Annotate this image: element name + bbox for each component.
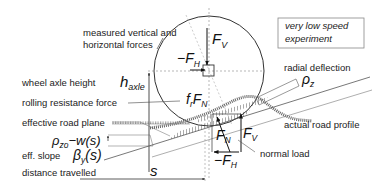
label-measured-forces-2: horizontal forces <box>83 39 153 50</box>
label-normal-load: normal load <box>260 148 310 159</box>
rho-zo-guides <box>108 135 153 146</box>
symbol-rho-z: ρz <box>301 71 315 89</box>
label-rolling-resistance: rolling resistance force <box>22 97 117 108</box>
symbol-fh-low: −FH <box>214 152 238 170</box>
label-eff-slope: eff. slope <box>22 150 60 161</box>
symbol-beta: βy(s) <box>72 147 102 165</box>
symbol-s: s <box>150 162 158 179</box>
label-distance-travelled: distance travelled <box>22 167 96 178</box>
label-wheel-axle-height: wheel axle height <box>21 77 96 88</box>
label-effective-road-plane: effective road plane <box>22 117 105 128</box>
rolling-resistance-leader <box>128 101 180 103</box>
symbol-fv-low: FV <box>243 125 259 143</box>
symbol-fh-top: −FH <box>177 50 201 69</box>
label-radial-deflection: radial deflection <box>284 62 351 73</box>
symbol-fn: FN <box>216 127 232 145</box>
label-measured-forces-1: measured vertical and <box>83 27 176 38</box>
symbol-h-axle: haxle <box>120 73 145 92</box>
symbol-fr-fn: frFN <box>186 91 208 109</box>
symbol-fv-top: FV <box>212 30 228 50</box>
label-actual-road-profile: actual road profile <box>284 119 360 130</box>
measured-forces-leader <box>157 38 163 49</box>
tire-road-diagram: very low speed experiment measured verti… <box>0 0 384 186</box>
note-line-1: very low speed <box>285 20 349 31</box>
note-line-2: experiment <box>285 33 332 44</box>
